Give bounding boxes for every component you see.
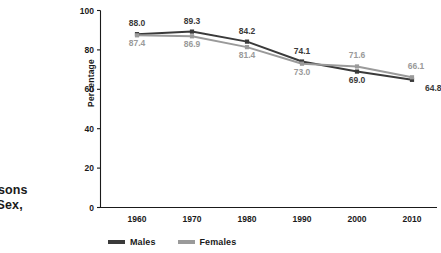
x-tick-label: 1960 xyxy=(128,214,147,224)
data-marker xyxy=(190,34,194,38)
chart-legend: Males Females xyxy=(108,237,236,247)
chart-plot-area: 020406080100 196019701980199020002010 88… xyxy=(0,0,441,253)
data-marker xyxy=(300,62,304,66)
data-marker xyxy=(135,33,139,37)
y-tick-label: 0 xyxy=(89,203,94,213)
data-marker xyxy=(245,45,249,49)
legend-label-males: Males xyxy=(130,237,156,247)
x-tick-label: 1990 xyxy=(293,214,312,224)
legend-item-females[interactable]: Females xyxy=(178,237,237,247)
data-point-labels: 88.089.384.274.169.064.887.486.981.473.0… xyxy=(129,16,441,93)
data-label: 87.4 xyxy=(129,38,146,48)
legend-item-males[interactable]: Males xyxy=(108,237,156,247)
data-label: 71.6 xyxy=(349,50,366,60)
data-label: 89.3 xyxy=(184,16,201,26)
line-chart: 020406080100 196019701980199020002010 88… xyxy=(0,0,441,253)
data-marker xyxy=(190,29,194,33)
y-axis-title: Percentage xyxy=(86,48,96,118)
data-label: 88.0 xyxy=(129,18,146,28)
x-tick-label: 1970 xyxy=(183,214,202,224)
legend-swatch-females xyxy=(178,240,195,244)
x-tick-label: 1980 xyxy=(238,214,257,224)
legend-label-females: Females xyxy=(200,237,237,247)
data-label: 86.9 xyxy=(184,39,201,49)
data-label: 64.8 xyxy=(425,83,441,93)
y-tick-label: 100 xyxy=(80,6,94,16)
data-label: 66.1 xyxy=(408,61,425,71)
series-lines xyxy=(137,32,412,80)
legend-swatch-males xyxy=(108,240,125,244)
data-label: 84.2 xyxy=(239,26,256,36)
data-label: 69.0 xyxy=(349,75,366,85)
data-marker xyxy=(410,75,414,79)
data-label: 81.4 xyxy=(239,50,256,60)
data-marker xyxy=(355,64,359,68)
series-line-females xyxy=(137,35,412,77)
y-tick-label: 20 xyxy=(85,163,95,173)
axis-lines xyxy=(101,11,438,208)
x-tick-label: 2010 xyxy=(403,214,422,224)
x-axis-ticks: 196019701980199020002010 xyxy=(128,214,422,224)
y-tick-label: 40 xyxy=(85,124,95,134)
data-marker xyxy=(355,69,359,73)
data-marker xyxy=(245,40,249,44)
data-label: 73.0 xyxy=(294,67,311,77)
x-tick-label: 2000 xyxy=(348,214,367,224)
data-label: 74.1 xyxy=(294,46,311,56)
